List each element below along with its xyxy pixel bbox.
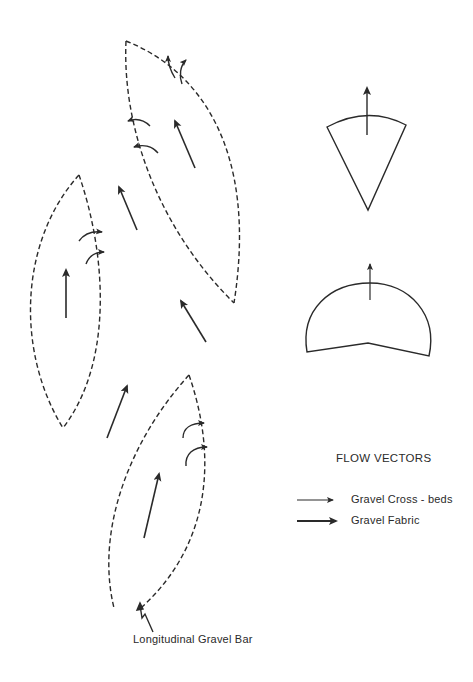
- cross-bed-arc: [134, 146, 158, 153]
- semicircle-rose-diagram: [306, 264, 431, 356]
- fabric-arrow: [175, 121, 195, 168]
- fabric-arrow: [119, 187, 137, 230]
- fan-rose-diagram: [327, 88, 406, 210]
- cross-bed-arc: [180, 60, 186, 84]
- left-bar-outline: [30, 175, 79, 428]
- upper-bar-outline: [126, 41, 234, 303]
- flow-diagram: [0, 0, 473, 682]
- cross-bed-arc: [128, 120, 150, 126]
- fabric-arrow: [144, 474, 159, 538]
- lower-gravel-bar: [109, 375, 207, 632]
- upper-gravel-bar: [126, 41, 240, 303]
- fabric-arrow: [181, 301, 206, 342]
- cross-bed-arc: [86, 252, 104, 264]
- annotation-label: Longitudinal Gravel Bar: [133, 633, 253, 645]
- legend-title: FLOW VECTORS: [336, 452, 431, 464]
- fabric-arrow: [107, 386, 127, 438]
- cross-bed-arc: [183, 423, 204, 438]
- cross-bed-arc: [79, 232, 102, 241]
- left-gravel-bar: [30, 175, 104, 428]
- lower-bar-outline: [109, 375, 189, 608]
- legend-label-fabric: Gravel Fabric: [351, 514, 420, 526]
- legend-label-crossbeds: Gravel Cross - beds: [351, 493, 453, 505]
